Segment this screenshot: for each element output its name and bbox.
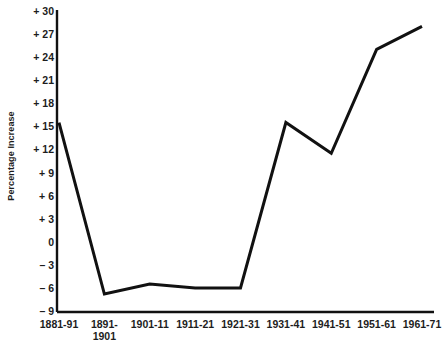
- x-tick-label: 1881-91: [40, 319, 79, 331]
- line-chart: Percentage Increase + 30+ 27+ 24+ 21+ 18…: [0, 0, 444, 356]
- x-tick-label-line: 1921-31: [221, 319, 260, 331]
- x-tick-label-line: 1961-71: [403, 319, 442, 331]
- x-tick-label: 1891-1901: [91, 319, 118, 342]
- x-tick-label-line: 1951-61: [357, 319, 396, 331]
- x-tick-label: 1931-41: [267, 319, 306, 331]
- x-tick-label: 1911-21: [176, 319, 214, 331]
- x-tick-label: 1921-31: [221, 319, 260, 331]
- x-tick-label: 1901-11: [131, 319, 169, 331]
- x-tick-label-line: 1941-51: [312, 319, 351, 331]
- x-tick-label-line: 1891-: [91, 319, 118, 331]
- x-tick-label: 1961-71: [403, 319, 442, 331]
- x-tick-label-line: 1901: [91, 331, 118, 343]
- x-tick-label-line: 1911-21: [176, 319, 214, 331]
- x-axis-tick-labels: 1881-911891-19011901-111911-211921-31193…: [0, 0, 444, 356]
- x-tick-label-line: 1901-11: [131, 319, 169, 331]
- x-tick-label-line: 1881-91: [40, 319, 79, 331]
- x-tick-label: 1951-61: [357, 319, 396, 331]
- x-tick-label: 1941-51: [312, 319, 351, 331]
- x-tick-label-line: 1931-41: [267, 319, 306, 331]
